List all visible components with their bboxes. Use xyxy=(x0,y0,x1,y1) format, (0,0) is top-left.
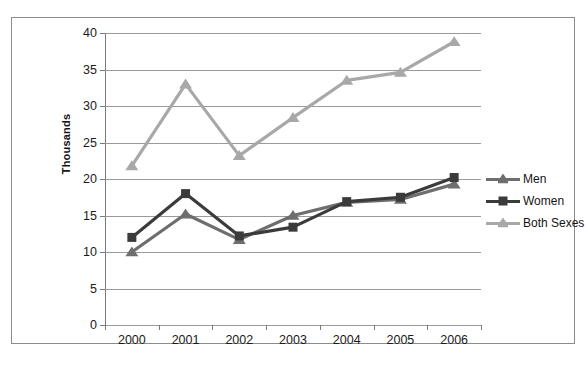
legend-key-icon xyxy=(486,172,520,186)
y-axis-label: 30 xyxy=(83,99,97,113)
x-axis-label: 2002 xyxy=(225,333,253,347)
gridline xyxy=(105,325,481,326)
legend-item-men[interactable]: Men xyxy=(486,168,586,190)
series-men xyxy=(125,179,460,257)
data-point-marker xyxy=(289,223,298,232)
data-point-marker xyxy=(450,173,459,182)
x-axis-label: 2001 xyxy=(172,333,200,347)
y-axis-label: 35 xyxy=(83,63,97,77)
series-both-sexes xyxy=(125,36,460,170)
x-axis-tick xyxy=(374,325,375,330)
x-axis-tick xyxy=(427,325,428,330)
data-point-marker xyxy=(448,36,461,46)
data-point-marker xyxy=(179,79,192,89)
x-axis-tick xyxy=(481,325,482,330)
data-point-marker xyxy=(342,197,351,206)
x-axis-tick xyxy=(320,325,321,330)
legend-item-both-sexes[interactable]: Both Sexes xyxy=(486,212,586,234)
y-axis-label: 10 xyxy=(83,245,97,259)
plot-area: 0510152025303540 20002001200220032004200… xyxy=(105,33,481,325)
series-women xyxy=(127,173,458,242)
data-point-marker xyxy=(181,189,190,198)
y-axis-label: 25 xyxy=(83,136,97,150)
y-axis-label: 15 xyxy=(83,209,97,223)
series-line xyxy=(132,42,454,166)
data-point-marker xyxy=(127,233,136,242)
legend-label: Women xyxy=(523,194,564,208)
chart-legend: MenWomenBoth Sexes xyxy=(486,168,586,234)
data-point-marker xyxy=(396,193,405,202)
y-axis-label: 5 xyxy=(90,282,97,296)
x-axis-label: 2004 xyxy=(333,333,361,347)
x-axis-label: 2005 xyxy=(387,333,415,347)
legend-label: Both Sexes xyxy=(523,216,584,230)
x-axis-tick xyxy=(159,325,160,330)
legend-label: Men xyxy=(523,172,546,186)
x-axis-tick xyxy=(266,325,267,330)
x-axis-label: 2000 xyxy=(118,333,146,347)
data-point-marker xyxy=(235,231,244,240)
x-axis-tick xyxy=(105,325,106,330)
triangle-marker-icon xyxy=(498,174,508,184)
series-plot xyxy=(105,33,481,325)
legend-key-icon xyxy=(486,194,520,208)
y-axis-label: 40 xyxy=(83,26,97,40)
x-axis-label: 2006 xyxy=(440,333,468,347)
y-axis-label: 20 xyxy=(83,172,97,186)
legend-item-women[interactable]: Women xyxy=(486,190,586,212)
chart-container: Thousands 0510152025303540 2000200120022… xyxy=(11,17,575,344)
data-point-marker xyxy=(179,208,192,218)
x-axis-tick xyxy=(212,325,213,330)
y-axis-label: 0 xyxy=(90,318,97,332)
y-axis-title: Thousands xyxy=(60,84,72,204)
legend-key-icon xyxy=(486,216,520,230)
triangle-marker-icon xyxy=(498,218,508,228)
square-marker-icon xyxy=(498,196,508,206)
x-axis-label: 2003 xyxy=(279,333,307,347)
